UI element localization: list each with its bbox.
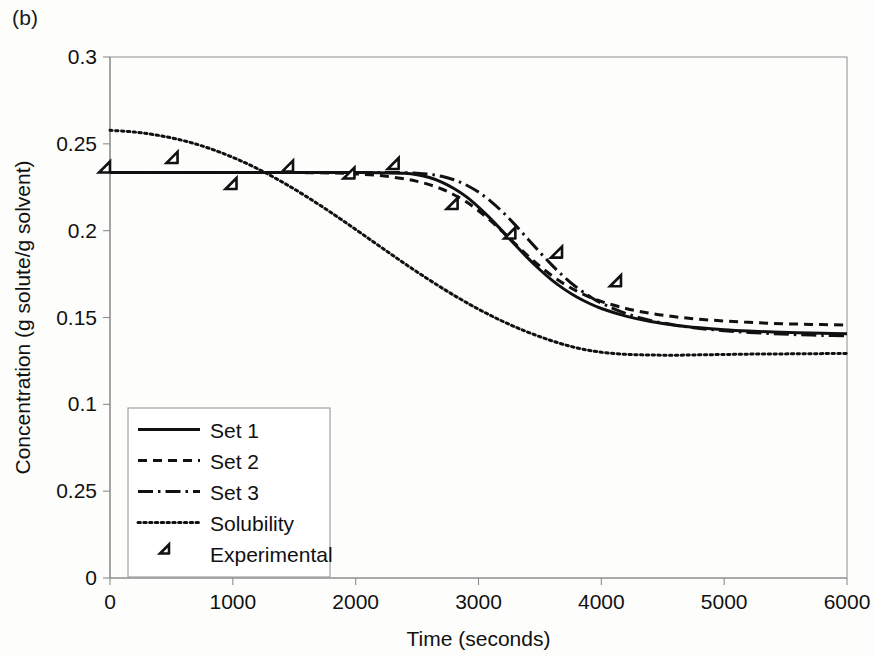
x-tick-label: 3000: [455, 590, 502, 613]
experimental-data-point: [388, 158, 399, 169]
chart-legend: Set 1Set 2Set 3SolubilityExperimental: [128, 408, 333, 577]
experimental-data-point: [610, 275, 621, 286]
legend-label: Set 2: [210, 450, 259, 473]
y-tick-label: 0.1: [68, 392, 97, 415]
y-tick-label: 0.15: [56, 306, 97, 329]
series-curve-set-2: [110, 172, 847, 324]
experimental-data-point: [447, 198, 458, 209]
y-axis-title: Concentration (g solute/g solvent): [11, 160, 34, 474]
y-tick-label: 0.3: [68, 45, 97, 68]
series-curve-set-1: [110, 172, 847, 333]
x-tick-label: 6000: [824, 590, 871, 613]
experimental-data-point: [167, 152, 178, 163]
legend-label: Experimental: [210, 543, 333, 566]
y-tick-label: 0.25: [56, 479, 97, 502]
y-tick-label: 0.2: [68, 219, 97, 242]
experimental-data-point: [99, 161, 110, 172]
x-axis-title: Time (seconds): [407, 627, 551, 650]
curves-layer: [110, 130, 847, 355]
x-tick-label: 0: [104, 590, 116, 613]
legend-label: Set 3: [210, 481, 259, 504]
concentration-vs-time-chart: 00.250.10.150.20.250.3010002000300040005…: [0, 0, 874, 656]
legend-label: Solubility: [210, 512, 295, 535]
x-tick-label: 2000: [332, 590, 379, 613]
figure-panel-b: (b) 00.250.10.150.20.250.301000200030004…: [0, 0, 874, 656]
x-tick-label: 4000: [578, 590, 625, 613]
legend-label: Set 1: [210, 419, 259, 442]
x-tick-label: 1000: [209, 590, 256, 613]
y-tick-label: 0: [85, 566, 97, 589]
y-tick-label: 0.25: [56, 132, 97, 155]
x-tick-label: 5000: [701, 590, 748, 613]
experimental-data-point: [226, 178, 237, 189]
experimental-data-point: [551, 247, 562, 258]
series-curve-set-3: [110, 172, 847, 335]
experimental-data-point: [282, 161, 293, 172]
